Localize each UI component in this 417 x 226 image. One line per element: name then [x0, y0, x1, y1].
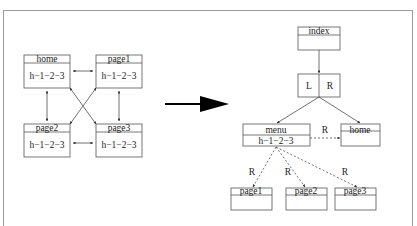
node-home-title: home: [36, 54, 57, 64]
node-page2-title: page2: [36, 123, 59, 133]
node-menu-body: h−1−2−3: [258, 136, 293, 146]
node-page3-title: page3: [108, 123, 131, 133]
node-page2-body: h−1−2−3: [29, 140, 64, 150]
split-left-label: L: [306, 81, 312, 91]
leaf-page2-title: page2: [295, 186, 318, 196]
edge-label-menu-home: R: [322, 125, 329, 135]
split-right-label: R: [327, 81, 334, 91]
node-home-body: h−1−2−3: [29, 71, 64, 81]
node-page1-title: page1: [108, 54, 131, 64]
node-menu-title: menu: [265, 125, 286, 135]
edge-label-page3: R: [342, 167, 349, 177]
node-index-title: index: [308, 26, 329, 36]
leaf-page1-title: page1: [240, 186, 263, 196]
leaf-page3-title: page3: [344, 186, 367, 196]
edge-label-page2: R: [285, 167, 292, 177]
node-home-title-right: home: [349, 125, 370, 135]
edge-label-page1: R: [249, 167, 256, 177]
right-arrow-icon: [165, 96, 229, 112]
node-page3-body: h−1−2−3: [101, 140, 136, 150]
node-page1-body: h−1−2−3: [101, 71, 136, 81]
diagram-canvas: home h−1−2−3 page1 h−1−2−3 page2 h−1−2−3…: [0, 0, 417, 226]
